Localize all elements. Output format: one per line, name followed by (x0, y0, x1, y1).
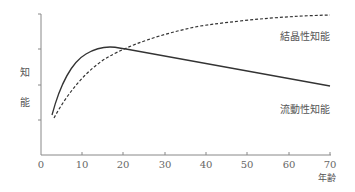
x-tick-50: 50 (241, 159, 254, 170)
y-axis-label-2: 能 (20, 94, 30, 109)
x-tick-20: 20 (117, 159, 130, 170)
x-axis-label: 年齢 (318, 171, 336, 184)
x-tick-40: 40 (200, 159, 213, 170)
x-tick-0: 0 (38, 159, 44, 170)
y-axis-label-1: 知 (20, 64, 30, 79)
x-tick-30: 30 (159, 159, 172, 170)
x-tick-10: 10 (76, 159, 89, 170)
crystallized-label: 結晶性知能 (280, 28, 330, 43)
fluid-label: 流動性知能 (280, 101, 330, 116)
x-tick-60: 60 (283, 159, 296, 170)
x-tick-70: 70 (324, 159, 337, 170)
